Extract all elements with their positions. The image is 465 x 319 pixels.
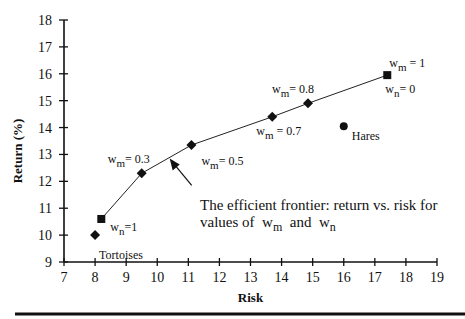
x-tick-label: 8 <box>92 270 99 285</box>
y-tick-label: 14 <box>38 121 52 136</box>
data-point-efficient-frontier <box>303 98 313 108</box>
data-point-efficient-frontier <box>97 215 105 223</box>
y-tick-label: 15 <box>38 94 52 109</box>
x-tick-label: 14 <box>275 270 289 285</box>
label-wm-0-3: wm= 0.3 <box>108 152 150 169</box>
label-hares: Hares <box>352 129 380 143</box>
data-point-efficient-frontier <box>383 71 391 79</box>
x-tick-label: 13 <box>244 270 258 285</box>
y-tick-label: 11 <box>39 201 52 216</box>
y-tick-label: 16 <box>38 67 52 82</box>
annotation-line-2: values of wm and wn <box>200 214 336 234</box>
x-tick-label: 12 <box>212 270 226 285</box>
y-tick-label: 17 <box>38 40 52 55</box>
label-tortoises: Tortoises <box>99 248 143 262</box>
data-point-efficient-frontier <box>186 140 196 150</box>
data-point-efficient-frontier <box>267 112 277 122</box>
y-tick-label: 13 <box>38 147 52 162</box>
y-axis-title: Return (%) <box>10 119 25 184</box>
efficient-frontier-chart: 7891011121314151617181991011121314151617… <box>0 0 465 319</box>
x-tick-label: 9 <box>123 270 130 285</box>
label-wm-0-7: wm = 0.7 <box>256 124 301 141</box>
y-tick-label: 10 <box>38 228 52 243</box>
labels: wn=1wm= 0.3wm= 0.5wm = 0.7wm= 0.8wm = 1w… <box>99 56 437 262</box>
y-tick-label: 12 <box>38 174 52 189</box>
x-tick-label: 16 <box>337 270 351 285</box>
data-point-tortoises <box>90 230 100 240</box>
label-wm-1: wm = 1 <box>389 56 425 73</box>
annotation-line-1: The efficient frontier: return vs. risk … <box>200 197 438 213</box>
y-tick-label: 18 <box>38 13 52 28</box>
x-tick-label: 7 <box>61 270 68 285</box>
x-tick-label: 19 <box>430 270 444 285</box>
x-tick-label: 10 <box>150 270 164 285</box>
x-tick-label: 17 <box>368 270 382 285</box>
data-point-hares <box>340 122 348 130</box>
x-tick-label: 18 <box>399 270 413 285</box>
label-wm-0-5: wm= 0.5 <box>201 154 243 171</box>
label-wn-0: wn= 0 <box>385 82 415 99</box>
x-axis-title: Risk <box>238 290 264 305</box>
y-tick-label: 9 <box>45 255 52 270</box>
label-wn-1: wn=1 <box>110 220 137 237</box>
x-tick-label: 11 <box>182 270 195 285</box>
x-tick-label: 15 <box>306 270 320 285</box>
label-wm-0-8: wm= 0.8 <box>272 82 314 99</box>
